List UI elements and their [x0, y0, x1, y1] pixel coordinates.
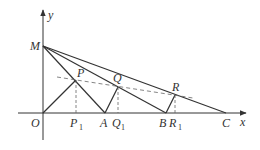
- point-label-Q1: Q 1: [112, 116, 125, 132]
- point-label-M: M: [29, 39, 41, 53]
- point-label-Q: Q: [113, 71, 122, 85]
- x-axis-label: x: [239, 115, 246, 129]
- point-label-R: R: [171, 80, 180, 94]
- svg-text:P: P: [69, 116, 78, 130]
- svg-text:R: R: [168, 116, 177, 130]
- point-label-A: A: [99, 116, 108, 130]
- segment-MB: [43, 46, 166, 113]
- y-axis-label: y: [47, 8, 54, 22]
- segment-AQ: [105, 87, 118, 113]
- point-label-O: O: [31, 116, 40, 130]
- point-label-C: C: [222, 116, 231, 130]
- svg-text:Q: Q: [112, 116, 121, 130]
- geometry-diagram: y x M O P Q R A B C P 1 Q 1 R 1: [0, 0, 260, 150]
- svg-text:1: 1: [178, 123, 182, 132]
- point-label-P1: P 1: [69, 116, 83, 132]
- point-label-R1: R 1: [168, 116, 182, 132]
- point-label-B: B: [159, 116, 167, 130]
- point-label-P: P: [76, 66, 85, 80]
- segment-MC: [43, 46, 226, 113]
- segment-BR: [166, 95, 175, 113]
- segment-OP: [43, 80, 76, 113]
- svg-text:1: 1: [121, 123, 125, 132]
- svg-text:1: 1: [79, 123, 83, 132]
